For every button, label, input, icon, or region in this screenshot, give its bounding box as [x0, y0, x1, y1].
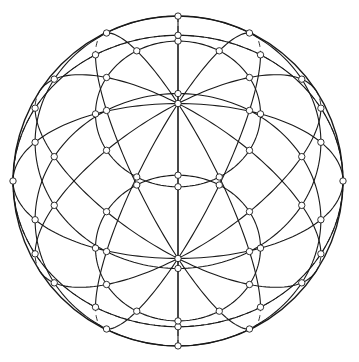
- grid-node: [92, 245, 98, 251]
- meridian-line-front: [178, 104, 321, 254]
- meridian-line-front: [35, 104, 178, 254]
- meridian-line-front: [104, 33, 178, 104]
- grid-node: [299, 280, 305, 286]
- grid-node: [257, 245, 263, 251]
- grid-node: [103, 208, 109, 214]
- grid-node: [51, 76, 57, 82]
- grid-node: [103, 107, 109, 113]
- grid-node: [246, 208, 252, 214]
- grid-node: [175, 318, 181, 324]
- grid-node: [175, 184, 181, 190]
- grid-node: [318, 105, 324, 111]
- grid-node: [103, 30, 109, 36]
- grid-node: [175, 13, 181, 19]
- grid-node: [257, 304, 263, 310]
- grid-node: [32, 139, 38, 145]
- grid-node: [246, 74, 252, 80]
- grid-node: [299, 76, 305, 82]
- grid-node: [103, 248, 109, 254]
- grid-node: [134, 308, 140, 314]
- sphere-diagram: Wireframe sphere with latitude and merid…: [0, 0, 359, 362]
- grid-node: [299, 153, 305, 159]
- meridian-line-front: [178, 258, 252, 329]
- grid-node: [246, 326, 252, 332]
- grid-node: [103, 74, 109, 80]
- grid-node: [257, 111, 263, 117]
- grid-node: [134, 182, 140, 188]
- meridian-line-front: [178, 33, 252, 104]
- grid-node: [51, 280, 57, 286]
- grid-node: [92, 52, 98, 58]
- grid-node: [103, 147, 109, 153]
- sphere-wireframe: [0, 0, 359, 362]
- grid-node: [257, 52, 263, 58]
- grid-node: [246, 248, 252, 254]
- grid-node: [51, 153, 57, 159]
- grid-node: [175, 32, 181, 38]
- meridian-line-front: [104, 258, 178, 329]
- grid-node: [32, 251, 38, 257]
- grid-node: [92, 111, 98, 117]
- grid-node: [299, 202, 305, 208]
- grid-node: [10, 178, 16, 184]
- grid-node: [318, 139, 324, 145]
- grid-node: [246, 107, 252, 113]
- grid-node: [175, 100, 181, 106]
- grid-node: [246, 30, 252, 36]
- grid-node: [51, 202, 57, 208]
- grid-node: [318, 251, 324, 257]
- grid-node: [216, 174, 222, 180]
- grid-node: [175, 343, 181, 349]
- grid-node: [175, 172, 181, 178]
- grid-node: [32, 105, 38, 111]
- grid-node: [175, 265, 181, 271]
- grid-node: [32, 217, 38, 223]
- meridian-line-front: [178, 108, 321, 258]
- grid-node: [92, 304, 98, 310]
- visible-grid-lines: [13, 16, 343, 346]
- grid-node: [134, 48, 140, 54]
- grid-node: [175, 90, 181, 96]
- grid-node: [246, 281, 252, 287]
- meridian-line-front: [35, 108, 178, 258]
- grid-node: [340, 178, 346, 184]
- grid-node: [103, 281, 109, 287]
- grid-node: [246, 147, 252, 153]
- grid-node: [216, 308, 222, 314]
- grid-node: [216, 182, 222, 188]
- grid-node: [134, 174, 140, 180]
- grid-node: [175, 255, 181, 261]
- grid-node: [103, 326, 109, 332]
- grid-node: [216, 48, 222, 54]
- grid-node: [318, 217, 324, 223]
